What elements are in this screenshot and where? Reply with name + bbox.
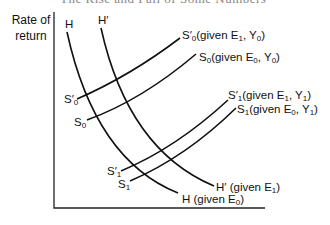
label-S0-end: S0(given E0, Y0) xyxy=(199,51,280,67)
curve-S0-prime xyxy=(77,38,180,99)
label-S0-prime-start: S′0 xyxy=(64,93,78,109)
label-S0-start: S0 xyxy=(74,116,86,132)
label-S1-end: S1(given E0, Y1) xyxy=(237,103,318,119)
curve-H xyxy=(67,32,178,193)
label-S0-prime-end: S′0(given E1, Y0) xyxy=(182,29,265,45)
label-S1-start: S1 xyxy=(118,178,130,194)
label-H-end: H (given E0) xyxy=(182,193,244,209)
curve-S1-prime xyxy=(121,100,228,171)
curve-S1 xyxy=(130,108,236,181)
label-H-prime-start: H′ xyxy=(98,14,108,26)
label-H-start: H xyxy=(65,18,73,30)
